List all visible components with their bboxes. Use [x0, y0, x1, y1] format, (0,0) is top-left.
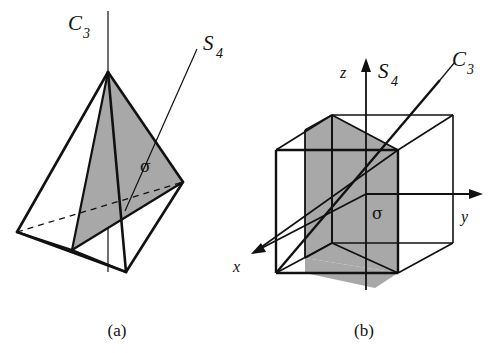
y-axis-label: y — [459, 208, 469, 226]
z-axis-arrowhead — [361, 58, 371, 72]
symmetry-elements-figure: C 3 S 4 σ (a) — [0, 0, 496, 353]
s4-label-base-panel-b: S — [378, 59, 389, 83]
caption-panel-b: (b) — [354, 321, 374, 340]
c3-label-sub-panel-b: 3 — [466, 62, 474, 77]
y-axis-arrowhead — [469, 189, 483, 199]
z-axis-label: z — [339, 64, 347, 81]
s4-label-base-panel-a: S — [203, 31, 214, 55]
x-axis-label: x — [232, 258, 240, 275]
panel-b-cube: z S 4 C 3 y x σ (b) — [232, 47, 483, 340]
c3-label-panel-b: C 3 — [452, 47, 474, 77]
sigma-mirror-plane-front2-panel-b — [305, 115, 332, 258]
figure-container: C 3 S 4 σ (a) — [0, 0, 496, 353]
s4-label-panel-a: S 4 — [203, 31, 223, 61]
caption-panel-a: (a) — [108, 321, 127, 340]
sigma-label-panel-a: σ — [140, 157, 151, 176]
c3-label-panel-a: C 3 — [68, 11, 90, 41]
c3-label-sub-panel-a: 3 — [82, 26, 90, 41]
sigma-label-panel-b: σ — [372, 204, 383, 223]
c3-label-base-panel-a: C — [68, 11, 83, 35]
c3-label-base-panel-b: C — [452, 47, 467, 71]
s4-label-panel-b: S 4 — [378, 59, 398, 89]
s4-label-sub-panel-b: 4 — [391, 74, 398, 89]
panel-a-tetrahedron: C 3 S 4 σ (a) — [17, 11, 223, 340]
s4-label-sub-panel-a: 4 — [216, 46, 223, 61]
